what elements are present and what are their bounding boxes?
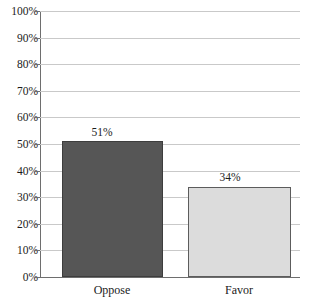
y-axis-label-20: 20%: [0, 218, 38, 230]
x-axis-category-oppose: Oppose: [82, 283, 142, 297]
gridline-60: [40, 117, 300, 118]
y-axis-label-0: 0%: [0, 271, 38, 283]
bar-favor: [188, 187, 291, 277]
gridline-100: [40, 11, 300, 12]
y-axis-label-30: 30%: [0, 191, 38, 203]
y-axis-label-40: 40%: [0, 165, 38, 177]
y-axis-label-70: 70%: [0, 85, 38, 97]
y-axis-label-90: 90%: [0, 32, 38, 44]
x-axis-category-favor: Favor: [209, 283, 269, 297]
y-axis-label-80: 80%: [0, 58, 38, 70]
plot-area: [40, 11, 300, 277]
x-axis-baseline: [40, 277, 300, 278]
gridline-70: [40, 91, 300, 92]
gridline-80: [40, 64, 300, 65]
gridline-90: [40, 38, 300, 39]
y-axis-label-10: 10%: [0, 244, 38, 256]
bar-value-label-favor: 34%: [200, 171, 260, 183]
y-axis-label-50: 50%: [0, 138, 38, 150]
bar-oppose: [62, 141, 163, 277]
y-axis-label-100: 100%: [0, 5, 38, 17]
y-axis-label-60: 60%: [0, 111, 38, 123]
bar-chart: 100% 90% 80% 70% 60% 50% 40% 30% 20% 10%…: [0, 0, 309, 305]
bar-value-label-oppose: 51%: [72, 126, 132, 138]
